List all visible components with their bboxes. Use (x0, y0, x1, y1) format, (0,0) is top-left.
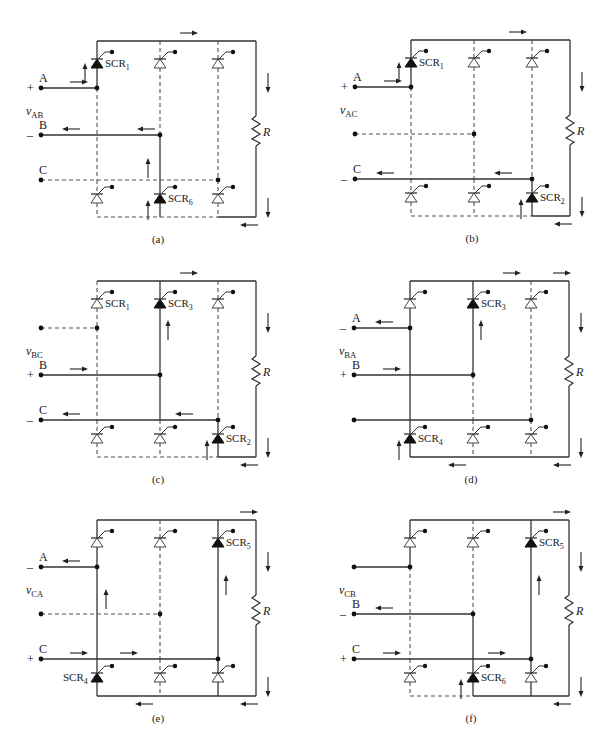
current-arrow-down (266, 438, 271, 458)
resistor-icon (566, 115, 574, 145)
current-arrow-down (266, 552, 271, 572)
arrowhead (175, 412, 181, 417)
junction-dot (471, 612, 476, 617)
current-arrow-right (240, 510, 258, 515)
rectifier-figure: RA+B–CvABSCR1SCR6(a)RA+C–vACSCR1SCR2(b)R… (0, 0, 613, 748)
phase-label: C (39, 642, 47, 656)
arrowhead (266, 566, 271, 572)
diode-triangle (154, 673, 166, 682)
arrowhead (224, 575, 229, 581)
junction-dot (158, 612, 163, 617)
scr-label-sub: 6 (502, 677, 506, 686)
current-arrow-right (383, 651, 401, 656)
diode-triangle (91, 194, 103, 203)
diode-triangle (526, 193, 538, 202)
input-terminal (39, 657, 44, 662)
gate-lead (161, 52, 174, 59)
voltage-label: vCA (26, 583, 44, 599)
input-terminal (352, 565, 357, 570)
diode-triangle (212, 434, 224, 443)
arrowhead (252, 510, 258, 515)
voltage-label-sub: BC (31, 350, 43, 360)
resistor-icon (565, 356, 573, 386)
diode-triangle (525, 673, 537, 682)
gate-lead (475, 51, 488, 58)
scr-label-main: SCR (105, 57, 126, 69)
input-terminal (352, 657, 357, 662)
scr-off-icon (154, 50, 177, 68)
arrowhead (240, 463, 246, 468)
diode-triangle (212, 673, 224, 682)
scr-off-icon (91, 529, 114, 547)
scr-off-icon (212, 185, 235, 203)
diode-triangle (154, 59, 166, 68)
scr-label-sub: 2 (247, 438, 251, 447)
panel-caption: (a) (152, 233, 165, 246)
gate-terminal (544, 664, 548, 668)
current-arrow-left (554, 222, 572, 227)
gate-terminal (173, 290, 177, 294)
diode-triangle (91, 538, 103, 547)
current-arrow-down (580, 197, 585, 217)
input-terminal (353, 177, 358, 182)
polarity-sign: – (26, 560, 34, 574)
panel-e: RA–C+vCASCR5SCR4(e) (26, 510, 271, 726)
arrowhead (565, 510, 571, 515)
gate-terminal (110, 425, 114, 429)
current-arrow-left (137, 127, 155, 132)
current-arrow-down (266, 198, 271, 218)
arrowhead (240, 702, 246, 707)
scr-off-icon (526, 49, 549, 67)
gate-terminal (231, 290, 235, 294)
diode-triangle (525, 299, 537, 308)
scr-label-sub: 5 (247, 542, 251, 551)
diode-triangle (405, 193, 417, 202)
phase-label: C (353, 162, 361, 176)
arrowhead (376, 171, 382, 176)
gate-lead (532, 292, 545, 299)
phase-label: C (39, 403, 47, 417)
scr-label-sub: 5 (560, 542, 564, 551)
current-arrow-left (135, 702, 153, 707)
current-arrow-up (397, 440, 402, 460)
current-arrow-right (180, 271, 198, 276)
junction-dot (95, 565, 100, 570)
gate-lead (474, 427, 487, 434)
junction-dot (530, 177, 535, 182)
current-arrow-down (579, 552, 584, 572)
arrowhead (397, 440, 402, 446)
scr-label-main: SCR (539, 536, 560, 548)
current-arrow-down (579, 438, 584, 458)
diode-triangle (91, 299, 103, 308)
scr-off-icon (91, 425, 114, 443)
arrowhead (205, 440, 210, 446)
arrowhead (266, 212, 271, 218)
current-arrow-right (553, 271, 571, 276)
scr-off-icon (154, 529, 177, 547)
scr-label-sub: 4 (439, 438, 443, 447)
diode-triangle (404, 673, 416, 682)
current-arrow-left (62, 127, 80, 132)
current-arrow-up (166, 320, 171, 340)
input-terminal (39, 612, 44, 617)
scr-off-icon (525, 664, 548, 682)
gate-lead (533, 51, 546, 58)
panel-a: RA+B–CvABSCR1SCR6(a) (26, 31, 271, 247)
gate-terminal (423, 664, 427, 668)
current-arrow-down (579, 313, 584, 333)
scr-label-main: SCR (481, 671, 502, 683)
gate-terminal (173, 425, 177, 429)
panel-f: RB–C+vCBSCR5SCR6(f) (339, 510, 584, 726)
current-arrow-down (266, 677, 271, 697)
scr-label-sub: 3 (502, 303, 506, 312)
gate-lead (98, 531, 111, 538)
diode-triangle (404, 434, 416, 443)
scr-off-icon (404, 529, 427, 547)
scr-label-sub: 1 (126, 303, 130, 312)
polarity-sign: + (27, 81, 34, 95)
current-arrow-up (479, 320, 484, 340)
junction-dot (95, 86, 100, 91)
current-arrow-left (375, 606, 393, 611)
current-arrow-up (83, 63, 88, 83)
current-arrow-right (503, 271, 521, 276)
